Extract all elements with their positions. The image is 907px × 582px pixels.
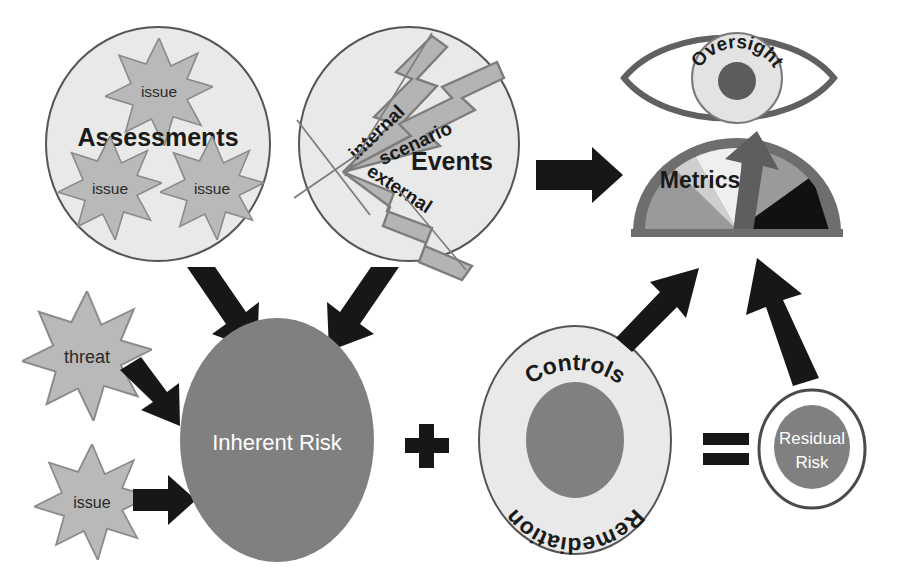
node-metrics[interactable]: Metrics (631, 130, 843, 237)
node-assessments[interactable]: issue Assessments issue issue (46, 27, 270, 261)
assessment-issue-label-1: issue (141, 83, 177, 100)
events-label: Events (411, 147, 493, 175)
node-oversight[interactable]: Oversight (624, 31, 834, 123)
gauge-base (631, 229, 843, 237)
plus-operator (405, 424, 449, 468)
eye-pupil (718, 62, 756, 100)
node-threat-star[interactable]: threat (22, 291, 152, 421)
node-inherent-risk[interactable]: Inherent Risk (180, 318, 374, 562)
node-controls[interactable]: Controls Remediation (479, 326, 671, 559)
controls-inner-circle (526, 382, 624, 498)
equals-operator (703, 433, 749, 465)
arrow-controls-to-metrics (616, 268, 699, 352)
assessment-issue-label-2: issue (92, 180, 128, 197)
arrow-events-to-metrics (536, 147, 623, 203)
inherent-risk-label: Inherent Risk (212, 430, 343, 455)
arrow-residual-risk-to-metrics (746, 258, 819, 386)
threat-label: threat (64, 347, 110, 367)
residual-risk-label-line1: Residual (779, 429, 845, 448)
issue-star-label: issue (73, 494, 110, 511)
node-issue-star[interactable]: issue (34, 444, 150, 560)
diagram-canvas: issue Assessments issue issue internal s… (0, 0, 907, 582)
node-residual-risk[interactable]: Residual Risk (759, 390, 865, 508)
metrics-label: Metrics (660, 167, 741, 193)
arrow-events-to-inherent-risk (327, 267, 399, 351)
residual-risk-label-line2: Risk (795, 453, 829, 472)
assessment-issue-label-3: issue (194, 180, 230, 197)
node-events[interactable]: internal scenario external Events (294, 27, 519, 280)
